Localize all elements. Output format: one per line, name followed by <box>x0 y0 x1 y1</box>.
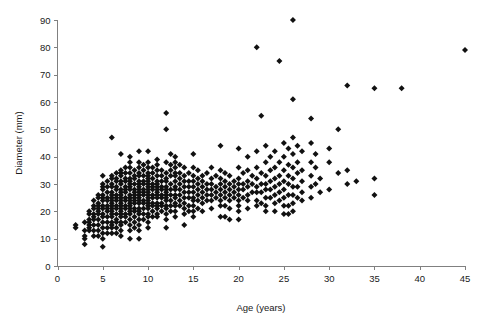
data-point <box>245 184 251 190</box>
data-point <box>249 181 255 187</box>
data-point <box>208 181 214 187</box>
x-axis-ticks: 051015202530354045 <box>55 266 470 284</box>
x-tick-label: 0 <box>55 273 60 284</box>
data-point <box>299 189 305 195</box>
data-point <box>177 162 183 168</box>
data-point <box>195 176 201 182</box>
data-point <box>181 206 187 212</box>
data-point <box>294 143 300 149</box>
data-point <box>127 159 133 165</box>
data-point <box>236 217 242 223</box>
x-tick-label: 5 <box>100 273 105 284</box>
data-point <box>150 208 156 214</box>
data-point <box>294 170 300 176</box>
data-point <box>163 159 169 165</box>
data-point <box>308 195 314 201</box>
data-point <box>236 165 242 171</box>
data-point <box>281 140 287 146</box>
data-point <box>172 208 178 214</box>
data-point <box>236 192 242 198</box>
data-point <box>208 165 214 171</box>
data-point <box>113 225 119 231</box>
data-point <box>177 170 183 176</box>
data-point <box>131 214 137 220</box>
data-point <box>213 173 219 179</box>
data-point <box>100 244 106 250</box>
data-point <box>150 165 156 171</box>
data-point <box>163 211 169 217</box>
data-point <box>299 148 305 154</box>
data-point <box>127 236 133 242</box>
data-point <box>263 203 269 209</box>
data-point <box>294 195 300 201</box>
data-point <box>254 148 260 154</box>
data-point <box>371 85 377 91</box>
data-point <box>290 176 296 182</box>
data-point <box>177 192 183 198</box>
data-point <box>263 143 269 149</box>
data-point <box>285 145 291 151</box>
data-point <box>240 170 246 176</box>
x-tick-label: 45 <box>460 273 471 284</box>
chart-canvas: 0102030405060708090 051015202530354045 A… <box>0 0 486 324</box>
data-point <box>227 192 233 198</box>
data-point <box>263 159 269 165</box>
data-point <box>227 173 233 179</box>
data-point <box>199 208 205 214</box>
data-point <box>281 186 287 192</box>
data-point <box>208 186 214 192</box>
data-point <box>154 156 160 162</box>
data-point <box>172 214 178 220</box>
data-point <box>254 176 260 182</box>
data-point <box>222 195 228 201</box>
data-point <box>281 167 287 173</box>
data-point <box>100 173 106 179</box>
data-point <box>231 189 237 195</box>
data-point <box>181 173 187 179</box>
x-axis-title: Age (years) <box>236 302 285 313</box>
data-point <box>285 203 291 209</box>
data-point <box>195 197 201 203</box>
data-point <box>190 189 196 195</box>
data-point <box>231 178 237 184</box>
y-tick-label: 0 <box>45 261 50 272</box>
data-point <box>190 203 196 209</box>
data-point <box>245 192 251 198</box>
data-point <box>163 170 169 176</box>
data-point <box>222 203 228 209</box>
y-tick-label: 40 <box>40 151 51 162</box>
data-point <box>218 176 224 182</box>
data-point <box>263 173 269 179</box>
data-point <box>222 178 228 184</box>
data-point <box>190 173 196 179</box>
data-point <box>199 200 205 206</box>
data-point <box>218 186 224 192</box>
data-point <box>344 167 350 173</box>
data-point <box>290 17 296 23</box>
data-point <box>199 184 205 190</box>
data-point <box>154 162 160 168</box>
data-point <box>168 197 174 203</box>
data-point <box>222 170 228 176</box>
data-point <box>267 167 273 173</box>
data-point <box>313 165 319 171</box>
data-point <box>172 159 178 165</box>
data-point <box>190 151 196 157</box>
data-point <box>245 197 251 203</box>
data-point <box>218 181 224 187</box>
data-point <box>222 184 228 190</box>
data-point <box>218 192 224 198</box>
y-tick-label: 80 <box>40 42 51 53</box>
y-tick-label: 60 <box>40 97 51 108</box>
y-tick-label: 90 <box>40 15 51 26</box>
data-point <box>190 178 196 184</box>
data-point <box>290 200 296 206</box>
data-point <box>218 167 224 173</box>
data-point <box>181 165 187 171</box>
data-point <box>177 186 183 192</box>
data-point <box>353 178 359 184</box>
data-point <box>127 170 133 176</box>
data-point <box>308 140 314 146</box>
x-tick-label: 10 <box>143 273 154 284</box>
data-point <box>245 154 251 160</box>
